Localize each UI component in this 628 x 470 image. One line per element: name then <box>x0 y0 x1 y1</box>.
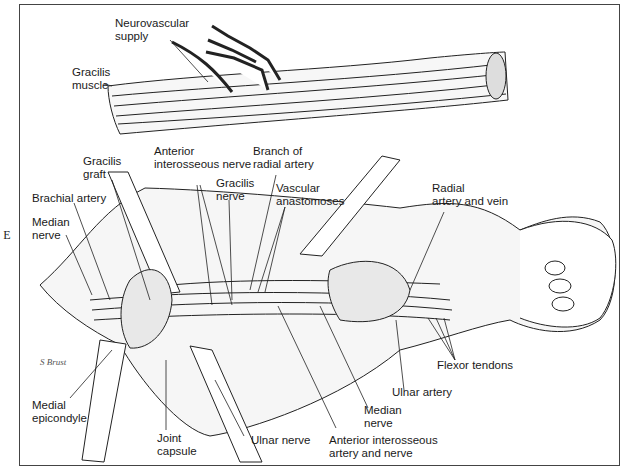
label-gracilis-graft: Gracilis graft <box>83 155 121 181</box>
label-gracilis-nerve: Gracilis nerve <box>216 177 254 203</box>
gracilis-muscle-drawing <box>108 52 508 134</box>
label-neurovascular-supply: Neurovascular supply <box>115 17 189 43</box>
label-anterior-interosseous-nerve: Anterior interosseous nerve <box>154 145 251 171</box>
label-median-nerve-bottom: Median nerve <box>364 404 402 430</box>
label-median-nerve-left: Median nerve <box>32 216 70 242</box>
label-joint-capsule: Joint capsule <box>157 432 197 458</box>
label-radial-artery-and-vein: Radial artery and vein <box>432 182 508 208</box>
label-medial-epicondyle: Medial epicondyle <box>32 399 87 425</box>
label-anterior-interosseous-artery-and-nerve: Anterior interosseous artery and nerve <box>329 434 438 460</box>
label-vascular-anastomoses: Vascular anastomoses <box>276 182 344 208</box>
label-ulnar-nerve: Ulnar nerve <box>251 434 310 447</box>
label-gracilis-muscle: Gracilis muscle <box>72 66 110 92</box>
artist-signature: S Brust <box>40 356 66 369</box>
label-brachial-artery: Brachial artery <box>32 192 106 205</box>
label-flexor-tendons: Flexor tendons <box>437 359 513 372</box>
label-branch-of-radial-artery: Branch of radial artery <box>253 145 314 171</box>
label-ulnar-artery: Ulnar artery <box>392 386 452 399</box>
